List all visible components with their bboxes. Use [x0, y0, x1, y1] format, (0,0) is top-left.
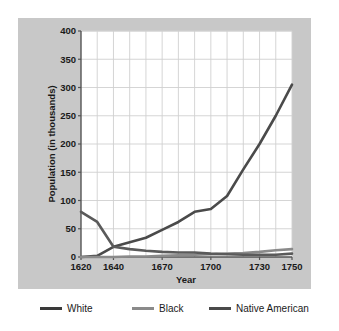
y-tick-label: 50 — [65, 223, 76, 234]
x-tick-label: 1670 — [152, 261, 173, 272]
x-tick-label: 1700 — [200, 261, 221, 272]
legend-label: White — [67, 303, 93, 314]
y-axis-ticks: 050100150200250300350400 — [60, 25, 81, 262]
legend-label: Native American — [236, 303, 309, 314]
legend: WhiteBlackNative American — [40, 303, 309, 314]
y-tick-label: 400 — [60, 25, 76, 36]
y-tick-label: 200 — [60, 138, 76, 149]
y-tick-label: 150 — [60, 167, 76, 178]
x-axis-ticks: 162016401670170017301750 — [70, 257, 302, 272]
x-axis-label: Year — [176, 274, 196, 285]
y-tick-label: 350 — [60, 54, 76, 65]
y-tick-label: 100 — [60, 195, 76, 206]
line-chart: 050100150200250300350400 162016401670170… — [0, 0, 339, 331]
legend-label: Black — [159, 303, 184, 314]
x-tick-label: 1750 — [281, 261, 302, 272]
y-axis-label: Population (in thousands) — [46, 85, 57, 202]
x-tick-label: 1640 — [103, 261, 124, 272]
chart-figure: 050100150200250300350400 162016401670170… — [0, 0, 339, 331]
y-tick-label: 300 — [60, 82, 76, 93]
x-tick-label: 1730 — [249, 261, 270, 272]
x-tick-label: 1620 — [70, 261, 91, 272]
y-tick-label: 250 — [60, 110, 76, 121]
